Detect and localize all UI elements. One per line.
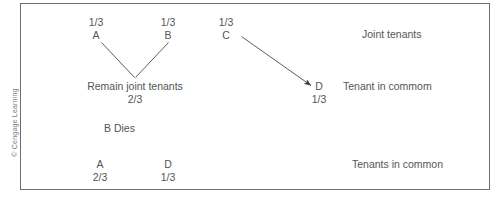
party-d-bottom: D 1/3 [152, 158, 184, 183]
party-b-top-share: 1/3 [146, 16, 190, 29]
party-a-top-name: A [74, 29, 118, 42]
party-c-top-share: 1/3 [204, 16, 248, 29]
party-a-bottom-name: A [84, 158, 116, 171]
remain-joint-tenants-group: Remain joint tenants 2/3 [56, 80, 214, 105]
party-b-top-name: B [146, 29, 190, 42]
party-d-middle-name: D [305, 80, 333, 93]
party-d-middle-share: 1/3 [305, 93, 333, 106]
party-c-top-name: C [204, 29, 248, 42]
tenants-in-common-status-label: Tenants in common [352, 158, 443, 170]
party-a-bottom: A 2/3 [84, 158, 116, 183]
b-dies-event-label: B Dies [104, 122, 135, 134]
party-d-bottom-name: D [152, 158, 184, 171]
party-c-top: 1/3 C [204, 16, 248, 41]
copyright-notice: © Cengage Learning [10, 87, 19, 159]
joint-tenants-status-label: Joint tenants [362, 28, 422, 40]
party-b-top: 1/3 B [146, 16, 190, 41]
party-a-bottom-share: 2/3 [84, 171, 116, 184]
party-d-bottom-share: 1/3 [152, 171, 184, 184]
tenant-in-common-status-label: Tenant in commom [343, 80, 432, 92]
remain-joint-tenants-share: 2/3 [56, 93, 214, 106]
party-a-top-share: 1/3 [74, 16, 118, 29]
remain-joint-tenants-label: Remain joint tenants [56, 80, 214, 93]
diagram-root: © Cengage Learning 1/3 A 1/3 B 1/3 C Joi… [0, 0, 503, 201]
party-d-middle: D 1/3 [305, 80, 333, 105]
party-a-top: 1/3 A [74, 16, 118, 41]
